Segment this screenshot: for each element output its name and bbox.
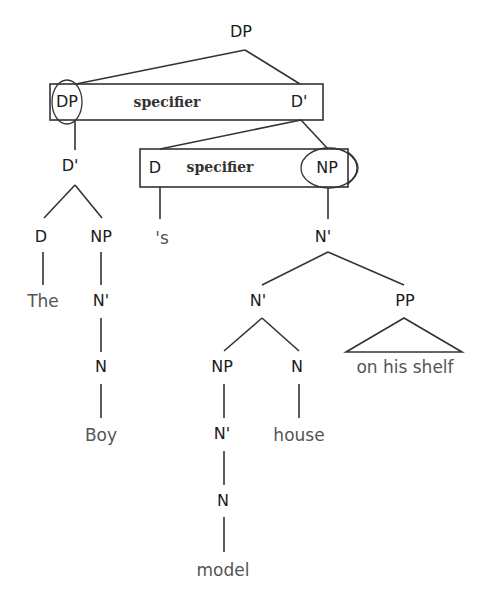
node-d-possessive: D — [149, 160, 161, 176]
node-np-model: NP — [211, 359, 233, 375]
node-np-left: NP — [90, 229, 112, 245]
syntax-tree-diagram: DP DP specifier D' D' D specifier NP D N… — [0, 0, 489, 604]
branch-nbar-r1-to-pp — [328, 252, 404, 285]
node-n-model: N — [217, 493, 229, 509]
lower-box-specifier-label: specifier — [187, 160, 254, 174]
branch-root-to-dp-spec — [76, 50, 245, 84]
node-nbar-left: N' — [93, 293, 109, 309]
node-dp-specifier: DP — [56, 94, 78, 110]
node-dbar-left: D' — [62, 158, 79, 174]
word-boy: Boy — [85, 427, 117, 444]
branch-nbar-r1-to-nbar-r2 — [262, 252, 328, 285]
word-model: model — [197, 562, 250, 579]
node-nbar-r2: N' — [250, 293, 266, 309]
branch-dbar-to-d — [160, 120, 301, 149]
node-n-house: N — [291, 359, 303, 375]
node-pp: PP — [395, 293, 414, 309]
tree-lines — [0, 0, 489, 604]
node-d-left: D — [35, 229, 47, 245]
node-dbar-top: D' — [291, 94, 308, 110]
word-house: house — [273, 427, 324, 444]
node-nbar-r1: N' — [315, 229, 331, 245]
node-np-right: NP — [316, 160, 338, 176]
node-nbar-model: N' — [214, 426, 230, 442]
word-on-his-shelf: on his shelf — [356, 359, 453, 376]
node-dp-root: DP — [230, 24, 252, 40]
word-the: The — [27, 293, 59, 310]
branch-dbar-to-np — [301, 120, 328, 149]
word-possessive-s: 's — [155, 230, 169, 247]
branch-dbar-to-np-left — [75, 185, 102, 218]
node-n-left: N — [95, 359, 107, 375]
branch-nbar-r2-to-n — [262, 318, 299, 351]
upper-box-specifier-label: specifier — [134, 95, 201, 109]
branch-dbar-to-d-left — [44, 185, 75, 218]
pp-triangle — [346, 318, 462, 352]
branch-nbar-r2-to-np — [224, 318, 262, 351]
branch-root-to-dbar — [245, 50, 300, 84]
